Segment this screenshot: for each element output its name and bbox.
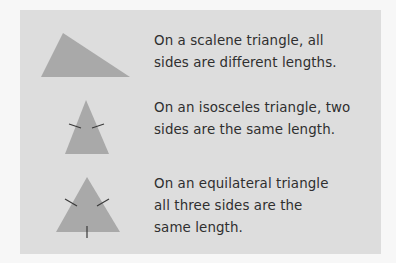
- scalene-triangle-icon: [41, 33, 130, 77]
- isosceles-caption: On an isosceles triangle, two sides are …: [154, 97, 350, 141]
- scalene-caption: On a scalene triangle, all sides are dif…: [154, 30, 337, 74]
- equilateral-triangle-icon: [56, 177, 120, 238]
- isosceles-triangle-icon: [65, 100, 109, 154]
- equilateral-caption: On an equilateral triangle all three sid…: [154, 173, 329, 239]
